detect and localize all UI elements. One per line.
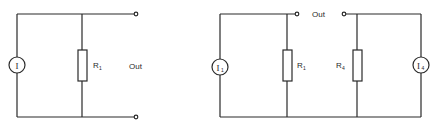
circuit-diagram: I R 1 Out Out I 1 (0, 0, 436, 126)
resistor-subscript: 1 (303, 65, 306, 71)
resistor-subscript: 1 (99, 65, 102, 71)
resistor-icon (353, 50, 362, 81)
resistor-subscript: 4 (342, 65, 345, 71)
source-label: I (417, 61, 420, 71)
current-source-i4: I 4 (413, 57, 429, 73)
resistor-r1: R 1 (283, 50, 306, 81)
source-label: I (217, 63, 220, 73)
current-source-i1: I 1 (212, 59, 228, 75)
right-out-terminal-right (342, 12, 346, 16)
resistor-r4: R 4 (336, 50, 362, 81)
source-subscript: 1 (221, 67, 224, 73)
resistor-icon (78, 50, 87, 81)
current-source-icon (212, 59, 228, 75)
output-label: Out (312, 10, 326, 19)
right-circuit: Out I 1 R 1 R 4 I 4 (212, 10, 429, 117)
current-source-i: I (9, 57, 25, 73)
left-out-terminal-top (134, 12, 138, 16)
resistor-r1: R 1 (78, 50, 102, 81)
right-out-terminal-left (295, 12, 299, 16)
source-subscript: 4 (422, 65, 425, 71)
left-out-terminal-bottom (134, 115, 138, 119)
left-circuit: I R 1 Out (9, 12, 143, 119)
source-label: I (16, 61, 19, 71)
resistor-icon (283, 50, 292, 81)
output-label: Out (129, 62, 143, 71)
